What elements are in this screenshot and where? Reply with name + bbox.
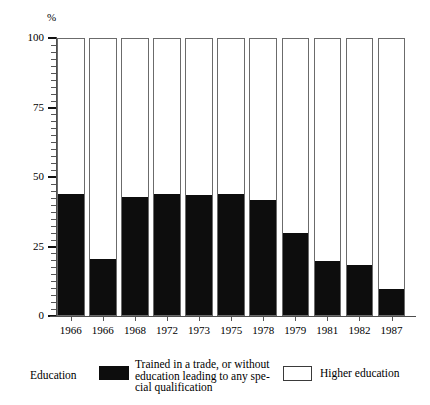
y-axis-tick-label: 50 bbox=[14, 171, 44, 182]
bar-segment-trained bbox=[154, 194, 180, 315]
y-axis-minor-tick bbox=[51, 87, 56, 88]
y-axis-minor-tick bbox=[51, 142, 56, 143]
y-axis-tick-label-wrap: 25 bbox=[14, 241, 44, 252]
y-axis-minor-tick bbox=[51, 94, 56, 95]
y-axis-minor-tick bbox=[51, 128, 56, 129]
legend-swatch-trained bbox=[99, 366, 129, 380]
x-axis-tick-label: 1978 bbox=[246, 324, 280, 337]
y-axis-minor-tick bbox=[51, 59, 56, 60]
y-axis-minor-tick bbox=[51, 149, 56, 150]
x-axis-tick bbox=[71, 317, 72, 321]
legend-label-higher-education: Higher education bbox=[320, 367, 400, 380]
y-axis-tick-label-wrap: 0 bbox=[14, 310, 44, 321]
y-axis-tick-label-wrap: 75 bbox=[14, 102, 44, 113]
x-axis-tick-label: 1979 bbox=[278, 324, 312, 337]
bar-column bbox=[57, 38, 85, 316]
bar-column bbox=[249, 38, 277, 316]
y-axis-minor-tick bbox=[51, 45, 56, 46]
y-axis-minor-tick bbox=[51, 288, 56, 289]
y-axis-minor-tick bbox=[51, 80, 56, 81]
y-axis-unit-label: % bbox=[47, 11, 56, 23]
x-axis-tick bbox=[392, 317, 393, 321]
bar-segment-trained bbox=[379, 289, 405, 315]
y-axis-minor-tick bbox=[51, 240, 56, 241]
bar-column bbox=[89, 38, 117, 316]
x-axis-tick-label: 1973 bbox=[182, 324, 216, 337]
y-axis-major-tick bbox=[48, 107, 56, 109]
bar-segment-trained bbox=[58, 194, 84, 315]
legend-label-trained-line3: cial qualification bbox=[135, 382, 275, 394]
bar-segment-trained bbox=[347, 265, 373, 315]
y-axis-minor-tick bbox=[51, 309, 56, 310]
x-axis-tick-label: 1987 bbox=[375, 324, 409, 337]
x-axis-tick-label: 1968 bbox=[118, 324, 152, 337]
y-axis-minor-tick bbox=[51, 198, 56, 199]
y-axis-minor-tick bbox=[51, 73, 56, 74]
x-axis-tick-label: 1982 bbox=[342, 324, 376, 337]
x-axis-tick-label: 1972 bbox=[150, 324, 184, 337]
bar-column bbox=[185, 38, 213, 316]
legend-label-trained-line1: Trained in a trade, or without bbox=[135, 359, 275, 371]
y-axis-minor-tick bbox=[51, 114, 56, 115]
y-axis-minor-tick bbox=[51, 156, 56, 157]
bar-segment-trained bbox=[122, 197, 148, 315]
y-axis-minor-tick bbox=[51, 135, 56, 136]
x-axis-tick bbox=[103, 317, 104, 321]
y-axis-minor-tick bbox=[51, 260, 56, 261]
x-axis-tick bbox=[295, 317, 296, 321]
y-axis-minor-tick bbox=[51, 191, 56, 192]
y-axis-tick-label: 25 bbox=[14, 241, 44, 252]
y-axis-major-tick bbox=[48, 176, 56, 178]
y-axis-tick-label: 75 bbox=[14, 102, 44, 113]
y-axis-minor-tick bbox=[51, 274, 56, 275]
legend-label-trained: Trained in a trade, or without education… bbox=[135, 359, 275, 394]
plot-area bbox=[57, 38, 407, 316]
x-axis-tick bbox=[263, 317, 264, 321]
y-axis-minor-tick bbox=[51, 170, 56, 171]
y-axis-minor-tick bbox=[51, 121, 56, 122]
y-axis-tick-label: 0 bbox=[14, 310, 44, 321]
bar-segment-trained bbox=[218, 194, 244, 315]
y-axis-minor-tick bbox=[51, 163, 56, 164]
bar-column bbox=[346, 38, 374, 316]
x-axis-tick-label: 1975 bbox=[214, 324, 248, 337]
y-axis-minor-tick bbox=[51, 66, 56, 67]
bar-segment-trained bbox=[90, 259, 116, 315]
x-axis-tick bbox=[327, 317, 328, 321]
y-axis-tick-label: 100 bbox=[14, 32, 44, 43]
y-axis-minor-tick bbox=[51, 253, 56, 254]
bar-column bbox=[314, 38, 342, 316]
y-axis-minor-tick bbox=[51, 302, 56, 303]
bar-segment-trained bbox=[250, 200, 276, 315]
y-axis-minor-tick bbox=[51, 233, 56, 234]
x-axis-tick bbox=[135, 317, 136, 321]
x-axis-tick bbox=[231, 317, 232, 321]
y-axis-major-tick bbox=[48, 246, 56, 248]
bar-column bbox=[378, 38, 406, 316]
x-axis-tick bbox=[167, 317, 168, 321]
y-axis-minor-tick bbox=[51, 267, 56, 268]
x-axis-tick-label: 1981 bbox=[310, 324, 344, 337]
y-axis-tick-label-wrap: 50 bbox=[14, 171, 44, 182]
y-axis-minor-tick bbox=[51, 219, 56, 220]
legend-swatch-higher-education bbox=[283, 366, 312, 381]
y-axis-minor-tick bbox=[51, 212, 56, 213]
y-axis-major-tick bbox=[48, 37, 56, 39]
y-axis-minor-tick bbox=[51, 101, 56, 102]
bar-column bbox=[282, 38, 310, 316]
y-axis-minor-tick bbox=[51, 184, 56, 185]
x-axis-tick bbox=[359, 317, 360, 321]
stacked-bar-chart: % 0255075100 196619661968197219731975197… bbox=[0, 0, 430, 405]
y-axis-minor-tick bbox=[51, 52, 56, 53]
x-axis-line bbox=[50, 316, 416, 317]
y-axis-minor-tick bbox=[51, 281, 56, 282]
y-axis-tick-label-wrap: 100 bbox=[14, 32, 44, 43]
bar-segment-trained bbox=[283, 233, 309, 315]
bar-column bbox=[217, 38, 245, 316]
bar-segment-trained bbox=[186, 195, 212, 315]
legend-title: Education bbox=[30, 369, 77, 382]
x-axis-tick bbox=[199, 317, 200, 321]
bar-column bbox=[153, 38, 181, 316]
chart-legend: Education Trained in a trade, or without… bbox=[0, 358, 430, 404]
x-axis-tick-label: 1966 bbox=[86, 324, 120, 337]
